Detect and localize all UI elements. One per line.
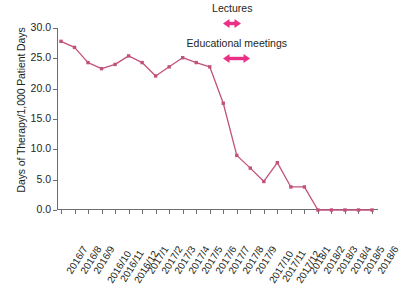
x-axis-tick-mark [196,210,197,214]
data-point-marker [59,40,62,43]
x-axis-tick-mark [210,210,211,214]
double-headed-arrow-icon [223,53,250,64]
y-axis-tick-label: 25.0 [31,51,51,64]
data-point-marker [167,65,170,68]
x-axis-tick-mark [61,210,62,214]
data-point-marker [127,54,130,57]
data-point-marker [316,208,319,211]
x-axis-tick-mark [264,210,265,214]
data-point-marker [235,154,238,157]
data-series-line [57,28,378,210]
arrow-head-left [223,19,230,28]
data-point-marker [357,208,360,211]
data-point-marker [343,208,346,211]
x-axis-tick-mark [237,210,238,214]
data-point-marker [330,208,333,211]
data-point-marker [370,208,373,211]
data-point-marker [303,185,306,188]
y-axis-tick-label: 20.0 [31,82,51,95]
x-axis-tick-mark [142,210,143,214]
y-axis-tick-label: 15.0 [31,112,51,125]
x-axis-tick-mark [223,210,224,214]
x-axis-tick-mark [183,210,184,214]
x-axis-tick-mark [129,210,130,214]
data-point-marker [222,102,225,105]
x-axis-tick-mark [115,210,116,214]
x-axis-tick-mark [88,210,89,214]
y-axis-tick-label: 30.0 [31,21,51,34]
data-point-marker [154,74,157,77]
x-axis-tick-mark [277,210,278,214]
data-point-marker [86,61,89,64]
data-point-marker [289,185,292,188]
data-point-marker [262,180,265,183]
x-axis-tick-mark [291,210,292,214]
data-point-marker [140,61,143,64]
data-point-marker [181,56,184,59]
arrow-head-right [235,19,242,28]
arrow-head-left [223,54,229,63]
y-axis-tick-label: 10.0 [31,142,51,155]
data-point-marker [113,63,116,66]
annotation-lectures-label: Lectures [212,2,252,15]
x-axis-tick-mark [102,210,103,214]
y-axis-tick-mark [53,210,57,211]
x-axis-tick-mark [304,210,305,214]
data-point-marker [276,161,279,164]
y-axis-tick-label: 0.0 [36,203,51,216]
series-polyline [61,41,372,210]
arrow-head-right [244,54,250,63]
data-point-marker [100,67,103,70]
data-point-marker [195,61,198,64]
x-axis-tick-mark [169,210,170,214]
x-axis-tick-mark [250,210,251,214]
data-point-marker [73,46,76,49]
plot-area: 0.05.010.015.020.025.030.0 2016/72016/82… [57,28,378,210]
y-axis-title: Days of Therapy/1,000 Patient Days [14,15,28,205]
data-point-marker [249,166,252,169]
annotation-educational-meetings-label: Educational meetings [187,37,287,50]
x-axis-tick-mark [75,210,76,214]
x-axis-tick-mark [156,210,157,214]
double-headed-arrow-icon [223,18,241,29]
data-point-marker [208,65,211,68]
y-axis-tick-label: 5.0 [36,173,51,186]
